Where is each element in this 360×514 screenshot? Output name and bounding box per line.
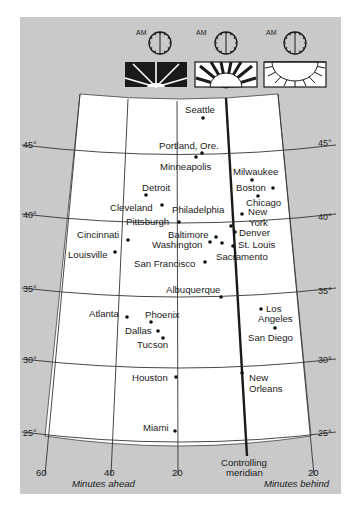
dot-denver [233, 230, 237, 234]
dot-louisville [113, 250, 117, 254]
lat-45-left: 45° [23, 140, 37, 150]
label-minneapolis: Minneapolis [160, 161, 211, 172]
label-new-orleans-2: Orleans [249, 383, 283, 394]
tick-20-behind: 20 [308, 467, 319, 478]
minutes-ahead-title: Minutes ahead [72, 478, 136, 489]
dot-new-york [240, 212, 244, 216]
lat-35-left: 35° [23, 284, 37, 294]
label-washington: Washington [152, 239, 202, 250]
label-louisville: Louisville [68, 249, 107, 260]
lat-35-right: 35° [318, 286, 332, 296]
tick-40-ahead: 40 [104, 467, 115, 478]
label-cleveland: Cleveland [110, 202, 153, 213]
dot-atlanta [125, 315, 129, 319]
dot-baltimore [214, 235, 218, 239]
dot-san-diego [273, 326, 277, 330]
am-label: AM [196, 29, 207, 36]
label-denver: Denver [239, 227, 271, 238]
am-label: AM [266, 29, 277, 36]
lat-40-right: 40° [318, 212, 332, 222]
tick-20-ahead: 20 [172, 467, 183, 478]
lat-25-right: 25° [318, 428, 332, 438]
lat-30-right: 30° [318, 355, 332, 365]
dot-dallas [156, 329, 160, 333]
label-houston: Houston [132, 372, 168, 383]
dot-extra [220, 241, 224, 245]
dot-albuquerque [219, 295, 223, 299]
tick-60-ahead: 60 [36, 467, 47, 478]
dot-seattle [201, 116, 205, 120]
sun-up-icon [264, 62, 326, 87]
label-angeles: Angeles [258, 313, 293, 324]
sun-rising-icon [195, 62, 257, 87]
label-philadelphia: Philadelphia [172, 204, 225, 215]
lat-25-left: 25° [23, 428, 37, 438]
dot-philadelphia [229, 224, 233, 228]
dot-detroit [144, 193, 148, 197]
dot-cincinnati [126, 238, 130, 242]
label-portland: Portland, Ore. [159, 140, 219, 151]
dot-portland [200, 151, 204, 155]
dot-minneapolis [194, 155, 198, 159]
lat-40-left: 40° [23, 210, 37, 220]
dot-pittsburgh [177, 220, 181, 224]
label-miami: Miami [143, 422, 169, 433]
label-tucson: Tucson [137, 339, 168, 350]
label-cincinnati: Cincinnati [77, 229, 119, 240]
label-detroit: Detroit [142, 182, 171, 193]
label-san-diego: San Diego [248, 332, 293, 343]
label-dallas: Dallas [125, 325, 152, 336]
am-label: AM [136, 29, 147, 36]
dot-st-louis [231, 244, 235, 248]
label-sacramento: Sacramento [216, 251, 268, 262]
lat-30-left: 30° [23, 355, 37, 365]
controlling-meridian-label-2: meridian [226, 467, 263, 478]
minutes-behind-title: Minutes behind [264, 478, 330, 489]
dot-miami [173, 429, 177, 433]
dot-phoenix [149, 320, 153, 324]
time-zone-diagram: AM [0, 0, 360, 514]
dot-los-angeles [259, 307, 263, 311]
dot-boston [271, 186, 275, 190]
label-phoenix: Phoenix [145, 309, 180, 320]
dot-cleveland [160, 203, 164, 207]
label-albuquerque: Albuquerque [166, 284, 220, 295]
dot-washington [208, 240, 212, 244]
lat-45-right: 45° [318, 138, 332, 148]
label-boston: Boston [236, 182, 266, 193]
label-st-louis: St. Louis [238, 239, 276, 250]
label-new: New [248, 206, 267, 217]
sun-dark-icon [125, 62, 187, 87]
dot-houston [174, 375, 178, 379]
label-san-francisco: San Francisco [134, 258, 195, 269]
label-milwaukee: Milwaukee [233, 166, 278, 177]
label-new-orleans-1: New [249, 372, 268, 383]
dot-new-orleans [240, 371, 244, 375]
label-atlanta: Atlanta [89, 308, 120, 319]
label-pittsburgh: Pittsburgh [126, 216, 169, 227]
label-seattle: Seattle [185, 104, 215, 115]
dot-san-francisco [203, 260, 207, 264]
